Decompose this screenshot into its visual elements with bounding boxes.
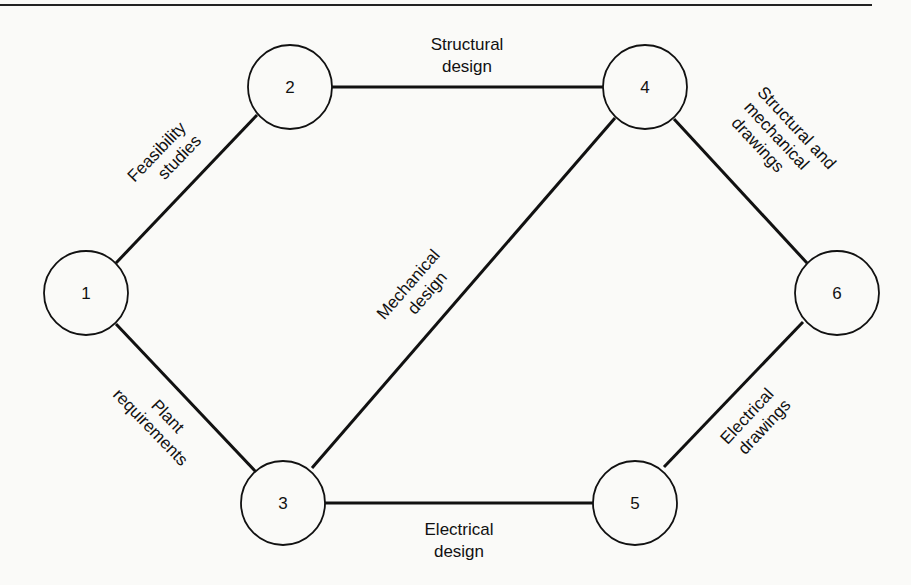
edge-label-structural-mechanical-drawings: Structural and mechanical drawings	[724, 83, 839, 201]
node-4: 4	[603, 45, 687, 129]
edge-3-4	[312, 118, 615, 468]
activity-network-diagram: 1 2 3 4 5 6 Structural design Electrical…	[0, 0, 911, 585]
node-label: 4	[640, 78, 649, 97]
node-1: 1	[44, 251, 128, 335]
edge-label-electrical-design: Electrical design	[425, 520, 494, 561]
edge-label-electrical-drawings: Electrical drawings	[717, 382, 795, 462]
node-label: 3	[278, 494, 287, 513]
edge-label-feasibility-studies: Feasibility studies	[124, 117, 205, 199]
edge-label-plant-requirements: Plant requirements	[109, 371, 206, 469]
edge-label-structural-design: Structural design	[431, 35, 504, 76]
svg-text:Electrical: Electrical	[425, 520, 494, 539]
node-label: 1	[81, 284, 90, 303]
node-2: 2	[248, 45, 332, 129]
edge-label-mechanical-design: Mechanical design	[373, 246, 459, 336]
node-3: 3	[241, 461, 325, 545]
node-label: 2	[285, 78, 294, 97]
node-5: 5	[593, 461, 677, 545]
node-label: 5	[630, 494, 639, 513]
node-label: 6	[832, 284, 841, 303]
svg-text:design: design	[442, 57, 492, 76]
svg-text:Structural: Structural	[431, 35, 504, 54]
node-6: 6	[795, 251, 879, 335]
svg-text:design: design	[434, 542, 484, 561]
